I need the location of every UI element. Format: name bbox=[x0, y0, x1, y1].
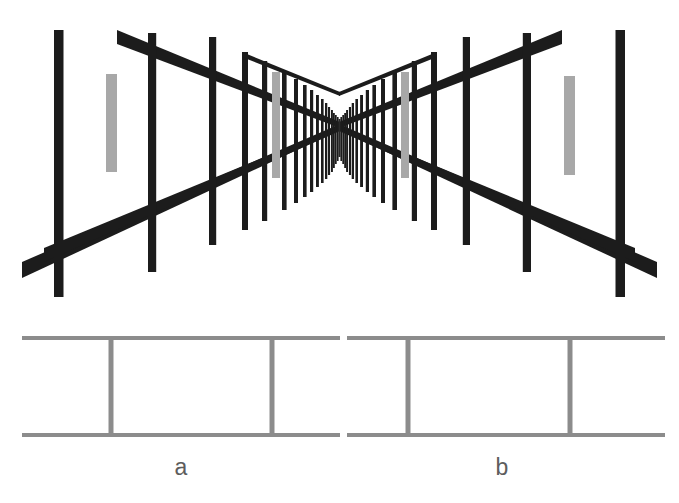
right-post-17 bbox=[340, 117, 342, 161]
right-post-12 bbox=[352, 103, 354, 179]
left-post-7 bbox=[294, 79, 298, 203]
left-post-5 bbox=[262, 61, 267, 221]
left-test-bar bbox=[272, 72, 280, 178]
segment-a-label: a bbox=[175, 454, 188, 480]
right-test-bar bbox=[401, 72, 409, 178]
right-post-11 bbox=[355, 99, 358, 183]
illusion-figure-root: a b bbox=[0, 0, 679, 503]
left-post-10 bbox=[316, 95, 319, 187]
right-post-7 bbox=[381, 79, 385, 203]
left-post-6 bbox=[282, 72, 287, 210]
right-post-9 bbox=[366, 90, 369, 192]
right-post-16 bbox=[342, 115, 344, 164]
left-post-13 bbox=[328, 107, 330, 175]
right-post-4 bbox=[431, 52, 437, 230]
right-corridor-group bbox=[339, 30, 657, 297]
right-post-5 bbox=[412, 61, 417, 221]
right-post-15 bbox=[344, 113, 346, 168]
left-post-15 bbox=[333, 113, 335, 168]
left-reference-bar bbox=[106, 74, 117, 172]
left-post-14 bbox=[331, 110, 333, 172]
right-post-1 bbox=[616, 30, 626, 297]
right-end-wall bbox=[339, 119, 341, 157]
left-post-17 bbox=[337, 117, 339, 161]
left-post-4 bbox=[242, 52, 248, 230]
right-post-10 bbox=[360, 95, 363, 187]
schematic-segment-b: b bbox=[347, 338, 665, 480]
right-post-2 bbox=[523, 33, 531, 272]
right-post-3 bbox=[463, 37, 470, 245]
left-post-9 bbox=[310, 90, 313, 192]
left-post-12 bbox=[325, 103, 327, 179]
schematic-comparison-panel: a b bbox=[0, 312, 679, 503]
left-post-2 bbox=[148, 33, 156, 272]
right-post-6 bbox=[392, 72, 397, 210]
perspective-corridor-scene bbox=[0, 0, 679, 312]
left-post-1 bbox=[54, 30, 64, 297]
left-post-3 bbox=[209, 37, 216, 245]
left-post-8 bbox=[303, 85, 307, 197]
right-post-13 bbox=[349, 107, 351, 175]
segment-b-label: b bbox=[496, 454, 509, 480]
left-corridor-group bbox=[22, 30, 340, 297]
right-post-14 bbox=[346, 110, 348, 172]
right-reference-bar bbox=[564, 76, 575, 175]
left-post-16 bbox=[335, 115, 337, 164]
schematic-segment-a: a bbox=[22, 338, 340, 480]
left-post-11 bbox=[321, 99, 324, 183]
right-post-8 bbox=[372, 85, 376, 197]
